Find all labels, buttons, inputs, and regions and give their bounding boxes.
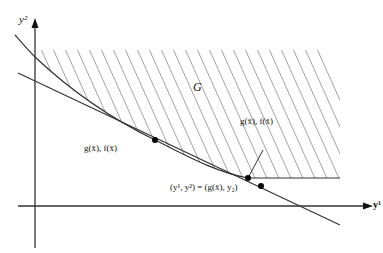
y1-axis-arrow-icon [363,203,373,210]
tangent-point-marker [152,137,158,143]
tangent-point-label: g(x̄), f(x̄) [84,144,117,153]
line-point-label: (y¹, y²) = (g(x̄), y₂) [170,183,238,192]
curve-point-marker [245,175,251,181]
curve-point-label: g(x̄), f(x̄) [240,117,273,126]
tangent-line [18,73,340,225]
diagram-canvas [0,0,383,253]
y2-axis-arrow-icon [32,18,39,28]
y2-axis-label: y² [19,14,27,25]
boundary-curve [15,35,340,178]
region-label-G: G [193,81,202,93]
y1-axis-label: y¹ [373,200,381,210]
line-point-marker [258,183,264,189]
